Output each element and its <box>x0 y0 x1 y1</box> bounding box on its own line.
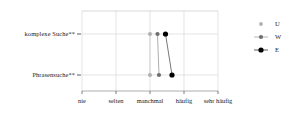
x-axis-label-sehr-haeufig: sehr häufig <box>194 97 242 105</box>
legend-label-e: E <box>275 46 279 54</box>
legend-marker-u <box>259 22 263 26</box>
data-point-w-komplexe-suche <box>155 32 159 36</box>
data-point-w-phrasensuche <box>157 73 161 77</box>
y-axis-ticks <box>77 34 81 75</box>
data-point-u-komplexe-suche <box>148 32 152 36</box>
x-axis-ticks <box>82 91 218 94</box>
legend-markers <box>254 22 268 53</box>
y-axis-label-phrasensuche: Phrasensuche** <box>32 71 75 79</box>
data-point-e-komplexe-suche <box>163 31 168 36</box>
legend-label-u: U <box>275 20 280 28</box>
data-point-e-phrasensuche <box>169 72 174 77</box>
data-point-u-phrasensuche <box>148 73 152 77</box>
legend-label-w: W <box>275 33 281 41</box>
y-axis-label-komplexe-suche: komplexe Suche** <box>25 30 75 38</box>
legend-marker-w <box>259 35 263 39</box>
legend-marker-e <box>258 47 263 52</box>
chart-container: komplexe Suche** Phrasensuche** nie selt… <box>0 0 292 119</box>
